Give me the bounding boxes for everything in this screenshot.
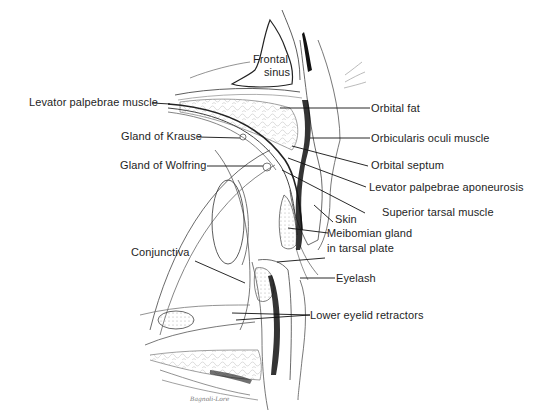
label-conjunctiva: Conjunctiva [131, 246, 190, 259]
label-orbital-fat: Orbital fat [371, 102, 420, 115]
label-skin: Skin [335, 213, 357, 226]
label-superior-tarsal-muscle: Superior tarsal muscle [382, 206, 494, 219]
label-lower-eyelid-retractors: Lower eyelid retractors [310, 309, 424, 322]
gland-of-krause-marker [240, 134, 246, 140]
label-gland-of-wolfring: Gland of Wolfring [120, 159, 206, 172]
label-frontal-sinus-line2: sinus [264, 66, 290, 79]
label-orbicularis-oculi-muscle: Orbicularis oculi muscle [371, 132, 490, 145]
label-meibomian-gland-line2: in tarsal plate [327, 242, 394, 255]
label-meibomian-gland-line1: Meibomian gland [327, 227, 412, 240]
orbicularis-stipple [210, 32, 312, 384]
label-gland-of-krause: Gland of Krause [121, 130, 202, 143]
artist-signature: Bagnoli-Lore [190, 395, 229, 402]
label-levator-palpebrae-aponeurosis: Levator palpebrae aponeurosis [369, 181, 524, 194]
label-levator-palpebrae-muscle: Levator palpebrae muscle [29, 96, 158, 109]
label-orbital-septum: Orbital septum [371, 159, 444, 172]
drawing-strokes [140, 10, 366, 410]
label-frontal-sinus-line1: Frontal [253, 53, 288, 66]
label-eyelash: Eyelash [336, 272, 376, 285]
